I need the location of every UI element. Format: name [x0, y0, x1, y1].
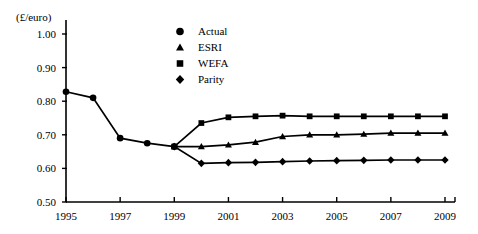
x-axis-tick-label: 2007: [380, 210, 403, 222]
x-axis-tick-label: 2003: [272, 210, 295, 222]
y-axis-title: (£/euro): [16, 11, 52, 24]
marker-diamond: [198, 160, 205, 168]
marker-diamond: [414, 156, 421, 164]
marker-square: [307, 113, 313, 119]
marker-diamond: [387, 156, 394, 164]
marker-diamond: [333, 157, 340, 165]
marker-circle: [176, 28, 184, 36]
marker-circle: [117, 135, 124, 142]
x-axis-tick-labels: 19951997199920012003200520072009: [55, 210, 457, 222]
marker-square: [388, 113, 394, 119]
marker-square: [361, 113, 367, 119]
marker-square: [415, 113, 421, 119]
series-line-wefa: [174, 116, 445, 147]
marker-circle: [90, 95, 97, 102]
data-series: [63, 88, 449, 167]
exchange-rate-line-chart: 1.000.900.800.700.600.50 199519971999200…: [0, 0, 478, 234]
x-axis-tick-label: 1997: [109, 210, 132, 222]
y-axis-tick-label: 0.80: [37, 95, 57, 107]
chart-canvas: 1.000.900.800.700.600.50 199519971999200…: [0, 0, 478, 234]
x-axis-tick-label: 2005: [326, 210, 349, 222]
marker-square: [198, 120, 204, 126]
marker-diamond: [252, 159, 259, 167]
x-axis-tick-label: 1995: [55, 210, 78, 222]
chart-legend: ActualESRIWEFAParity: [176, 25, 229, 85]
marker-square: [334, 113, 340, 119]
axes: [62, 20, 455, 202]
y-axis-tick-label: 0.70: [37, 129, 57, 141]
y-axis-tick-label: 0.50: [37, 196, 57, 208]
marker-diamond: [176, 75, 184, 84]
marker-circle: [144, 140, 151, 147]
marker-circle: [63, 88, 70, 95]
marker-square: [226, 114, 232, 120]
legend-label-esri: ESRI: [198, 41, 222, 53]
marker-square: [442, 113, 448, 119]
x-axis-tick-label: 2009: [434, 210, 457, 222]
marker-square: [280, 113, 286, 119]
legend-label-actual: Actual: [198, 25, 227, 37]
marker-diamond: [306, 157, 313, 165]
marker-triangle: [176, 44, 184, 51]
legend-label-wefa: WEFA: [198, 57, 228, 69]
x-axis-tick-label: 1999: [163, 210, 186, 222]
y-axis-tick-labels: 1.000.900.800.700.600.50: [37, 28, 57, 208]
x-axis-tick-label: 2001: [217, 210, 239, 222]
y-axis-tick-label: 0.90: [37, 62, 57, 74]
y-axis-tick-label: 0.60: [37, 162, 57, 174]
marker-square: [177, 60, 184, 67]
marker-diamond: [225, 159, 232, 167]
marker-diamond: [441, 156, 448, 164]
marker-square: [253, 113, 259, 119]
marker-diamond: [360, 156, 367, 164]
y-axis-tick-label: 1.00: [37, 28, 57, 40]
marker-diamond: [279, 158, 286, 166]
legend-label-parity: Parity: [198, 73, 225, 85]
